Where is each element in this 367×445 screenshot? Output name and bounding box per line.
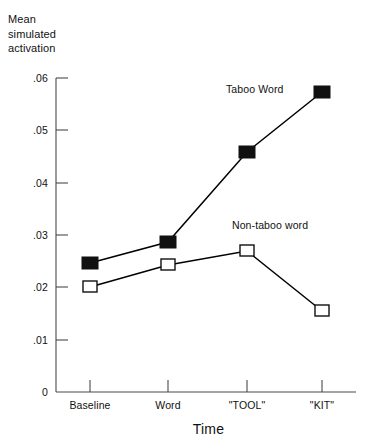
x-tick-marks (90, 380, 322, 392)
x-tick-label-kit: "KIT" (310, 399, 334, 411)
series-taboo-word (82, 86, 330, 269)
data-point-nontaboo-tool (240, 245, 254, 256)
data-point-taboo-kit (314, 86, 330, 98)
x-axis-title: Time (0, 421, 367, 437)
data-point-taboo-baseline (82, 257, 98, 269)
chart-canvas (0, 0, 367, 445)
y-tick-label-01: .01 (8, 334, 48, 346)
x-tick-label-tool: "TOOL" (229, 399, 265, 411)
y-tick-label-02: .02 (8, 281, 48, 293)
data-point-nontaboo-word (161, 259, 175, 270)
y-tick-label-05: .05 (8, 124, 48, 136)
y-tick-label-03: .03 (8, 229, 48, 241)
data-point-nontaboo-kit (315, 305, 329, 316)
y-tick-label-0: 0 (8, 386, 48, 398)
x-axis-title-text: Time (193, 421, 224, 437)
data-point-nontaboo-baseline (83, 281, 97, 292)
taboo-line (90, 92, 322, 263)
figure-container: Mean simulated activation (0, 0, 367, 445)
y-tick-label-04: .04 (8, 177, 48, 189)
y-tick-label-06: .06 (8, 72, 48, 84)
axes-group (56, 78, 356, 392)
series-label-taboo-word: Taboo Word (226, 83, 283, 95)
nontaboo-line (90, 251, 322, 311)
data-point-taboo-word (160, 236, 176, 248)
x-tick-label-word: Word (155, 399, 180, 411)
data-point-taboo-tool (239, 146, 255, 158)
x-tick-label-baseline: Baseline (69, 399, 110, 411)
series-label-nontaboo-word: Non-taboo word (232, 219, 308, 231)
y-tick-marks (56, 78, 68, 340)
